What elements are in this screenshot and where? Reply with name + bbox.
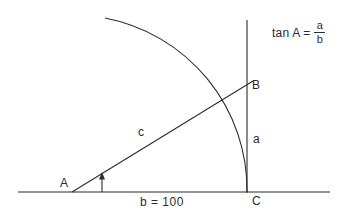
formula-lhs: tan A <box>272 27 300 39</box>
radius-arc <box>105 18 247 192</box>
figure-canvas: A B C a c b = 100 tan A = a b <box>0 0 358 223</box>
tangent-formula: tan A = a b <box>272 20 325 45</box>
vertex-label-c: C <box>252 195 261 207</box>
formula-fraction: a b <box>314 20 325 45</box>
side-label-a: a <box>253 133 260 145</box>
hypotenuse-line-ab <box>72 81 253 192</box>
base-measure-label: b = 100 <box>140 196 184 208</box>
vertex-label-b: B <box>252 79 260 91</box>
formula-equals-sign: = <box>303 27 310 39</box>
vertex-label-a: A <box>60 177 68 189</box>
formula-numerator: a <box>317 20 323 32</box>
formula-denominator: b <box>317 33 323 45</box>
side-label-c: c <box>138 126 144 138</box>
